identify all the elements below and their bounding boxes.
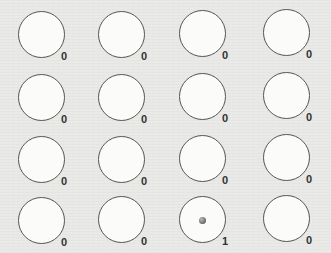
circle (18, 11, 65, 58)
grid-cell[interactable]: 0 (258, 190, 318, 250)
circle (263, 72, 310, 119)
count-label: 0 (141, 176, 147, 187)
circle (263, 134, 310, 181)
grid-cell[interactable]: 0 (258, 4, 318, 64)
count-label: 0 (306, 174, 312, 185)
circle (98, 11, 145, 58)
count-label: 0 (306, 49, 312, 60)
grid-cell[interactable]: 0 (93, 131, 153, 191)
grid-cell[interactable]: 0 (258, 129, 318, 189)
count-label: 0 (141, 236, 147, 247)
circle (179, 10, 226, 57)
grid-cell[interactable]: 0 (13, 192, 73, 252)
count-label: 0 (141, 114, 147, 125)
count-label: 0 (61, 237, 67, 248)
circle (98, 196, 145, 243)
circle-grid: 0 0 0 0 0 0 0 0 0 0 0 0 0 0 1 0 (0, 0, 331, 253)
grid-cell[interactable]: 0 (93, 191, 153, 251)
circle (263, 9, 310, 56)
circle (98, 74, 145, 121)
grid-cell[interactable]: 0 (174, 68, 234, 128)
grid-cell[interactable]: 0 (93, 6, 153, 66)
circle (179, 73, 226, 120)
count-label: 0 (61, 51, 67, 62)
grid-cell[interactable]: 0 (13, 6, 73, 66)
count-label: 0 (306, 112, 312, 123)
grid-cell[interactable]: 0 (174, 130, 234, 190)
count-label: 0 (61, 114, 67, 125)
count-label: 0 (222, 175, 228, 186)
count-label: 1 (222, 236, 228, 247)
count-label: 0 (306, 235, 312, 246)
circle (18, 136, 65, 183)
grid-cell[interactable]: 0 (93, 69, 153, 129)
grid-cell[interactable]: 0 (174, 5, 234, 65)
count-label: 0 (222, 50, 228, 61)
count-label: 0 (222, 113, 228, 124)
grid-cell[interactable]: 0 (13, 131, 73, 191)
circle (179, 196, 226, 243)
count-label: 0 (61, 176, 67, 187)
circle (263, 195, 310, 242)
grid-cell[interactable]: 1 (174, 191, 234, 251)
circle (179, 135, 226, 182)
circle (98, 136, 145, 183)
item-dot-icon (199, 217, 206, 224)
circle (18, 74, 65, 121)
circle (18, 197, 65, 244)
count-label: 0 (141, 51, 147, 62)
grid-cell[interactable]: 0 (258, 67, 318, 127)
grid-cell[interactable]: 0 (13, 69, 73, 129)
